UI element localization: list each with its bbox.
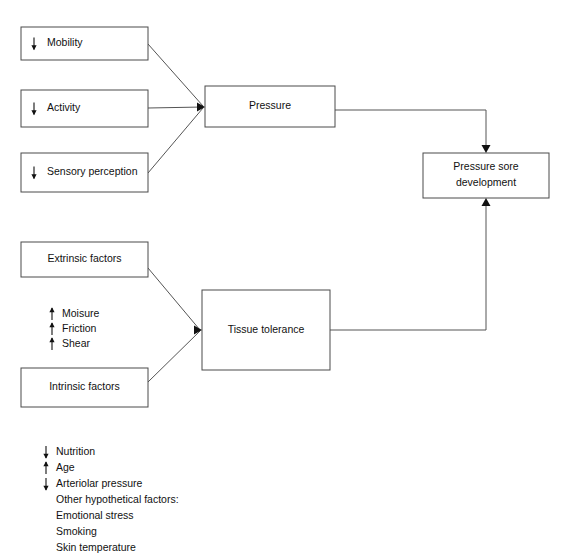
connector-intrinsic-to-tissue — [148, 331, 200, 382]
node-box-activity — [21, 90, 148, 127]
intrinsic-factor-item: Arteriolar pressure — [43, 477, 142, 491]
node-pressure[interactable]: Pressure — [205, 86, 335, 127]
node-label-tissue-tolerance: Tissue tolerance — [228, 323, 305, 335]
trend-arrow-up-extrinsic-factor-0 — [49, 307, 54, 320]
node-tissue-tolerance[interactable]: Tissue tolerance — [202, 290, 330, 370]
intrinsic-factor-item: Age — [43, 461, 74, 474]
intrinsic-factor-label: Skin temperature — [56, 541, 136, 553]
node-label-pressure-sore-development-line2: development — [456, 176, 516, 188]
intrinsic-factor-label: Emotional stress — [56, 509, 134, 521]
extrinsic-factor-item: Moisure — [49, 307, 99, 320]
connector-mobility-to-pressure — [148, 44, 203, 106]
node-mobility[interactable]: Mobility — [21, 27, 148, 60]
intrinsic-factor-label: Age — [56, 461, 75, 473]
extrinsic-factor-label: Moisure — [62, 307, 100, 319]
intrinsic-factor-item: Skin temperature — [56, 541, 136, 553]
node-pressure-sore-development[interactable]: Pressure soredevelopment — [423, 153, 549, 198]
node-label-pressure: Pressure — [249, 99, 291, 111]
extrinsic-factor-item: Shear — [49, 337, 90, 350]
extrinsic-factor-item: Friction — [49, 322, 96, 335]
node-label-activity: Activity — [47, 101, 81, 113]
intrinsic-factor-item: Smoking — [56, 525, 97, 537]
annotation-list-layer: MoisureFrictionShearNutritionAgeArteriol… — [43, 307, 178, 553]
node-box-mobility — [21, 27, 148, 60]
diagram-canvas: MobilityActivitySensory perceptionPressu… — [0, 0, 574, 559]
trend-arrow-up-extrinsic-factor-1 — [49, 322, 54, 335]
connector-pressure-to-sore — [335, 110, 486, 148]
node-label-pressure-sore-development-line1: Pressure sore — [453, 160, 519, 172]
intrinsic-factor-item: Emotional stress — [56, 509, 134, 521]
trend-arrow-down-intrinsic-factor-0 — [43, 446, 48, 459]
node-extrinsic-factors[interactable]: Extrinsic factors — [21, 242, 148, 277]
intrinsic-factor-label: Smoking — [56, 525, 97, 537]
node-intrinsic-factors[interactable]: Intrinsic factors — [21, 368, 148, 407]
arrowhead-sore-bottom — [482, 198, 491, 206]
extrinsic-factor-label: Friction — [62, 322, 97, 334]
node-label-sensory-perception: Sensory perception — [47, 165, 138, 177]
intrinsic-factor-label: Other hypothetical factors: — [56, 493, 179, 505]
connector-extrinsic-to-tissue — [148, 268, 200, 330]
connector-tissue-to-sore — [330, 203, 486, 330]
intrinsic-factor-item: Other hypothetical factors: — [56, 493, 179, 505]
trend-arrow-down-intrinsic-factor-2 — [43, 478, 48, 491]
node-activity[interactable]: Activity — [21, 90, 148, 127]
intrinsic-factor-label: Nutrition — [56, 445, 95, 457]
node-sensory-perception[interactable]: Sensory perception — [21, 153, 148, 192]
trend-arrow-up-intrinsic-factor-1 — [43, 461, 48, 474]
node-label-mobility: Mobility — [47, 36, 83, 48]
arrowhead-sore-top — [482, 145, 491, 153]
connector-activity-to-pressure — [148, 107, 203, 108]
extrinsic-factor-label: Shear — [62, 337, 91, 349]
node-label-extrinsic-factors: Extrinsic factors — [47, 252, 121, 264]
node-layer: MobilityActivitySensory perceptionPressu… — [21, 27, 549, 407]
intrinsic-factor-item: Nutrition — [43, 445, 95, 459]
trend-arrow-up-extrinsic-factor-2 — [49, 337, 54, 350]
node-label-intrinsic-factors: Intrinsic factors — [49, 380, 120, 392]
intrinsic-factor-label: Arteriolar pressure — [56, 477, 143, 489]
connector-sensory-to-pressure — [148, 108, 203, 173]
flowchart-svg: MobilityActivitySensory perceptionPressu… — [0, 0, 574, 559]
